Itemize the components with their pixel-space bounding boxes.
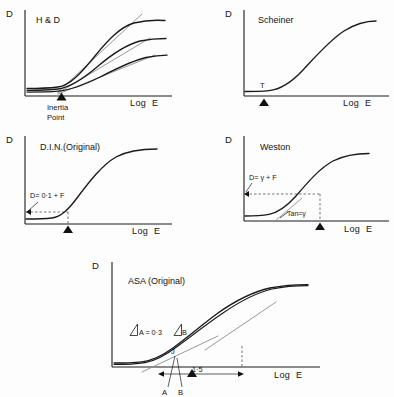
speed-point-marker-scheiner: [259, 99, 269, 107]
curve-characteristic-scheiner: [245, 21, 376, 92]
curve-a-asa: [114, 285, 308, 363]
panel-title-hd: H & D: [36, 15, 61, 25]
panel-title-din: D.I.N.(Original): [40, 142, 100, 152]
tangent-line-high-asa: [205, 302, 276, 350]
criterion-arrowhead-din: [26, 209, 31, 215]
curve-b-label: B: [178, 388, 183, 397]
tangent-line-1-hd: [58, 14, 142, 92]
interval-arrowhead-left-asa: [158, 371, 164, 377]
x-axis-title-hd: Log E: [130, 98, 158, 108]
panel-din: D D.I.N.(Original) D= 0·1 + F Log E: [0, 128, 196, 250]
panel-hd: D H & D Inertia Point Log E: [0, 0, 196, 128]
curve-b-asa: [114, 286, 308, 365]
figure-root: D H & D Inertia Point Log E D Scheiner: [0, 0, 394, 397]
delta-triangle-b-icon: [174, 324, 182, 336]
inertia-point-label-2: Point: [47, 113, 65, 122]
speed-point-marker-din: [63, 226, 73, 234]
panel-title-scheiner: Scheiner: [258, 15, 294, 25]
criterion-arrowhead-weston: [244, 191, 249, 197]
gamma-tangent-label: Tan=γ: [287, 210, 306, 218]
x-axis-title-scheiner: Log E: [343, 98, 371, 108]
panel-scheiner: D Scheiner T Log E: [196, 0, 394, 128]
delta-triangle-a-icon: [130, 324, 138, 336]
curve-low-contrast-hd: [27, 55, 167, 92]
curve-medium-contrast-hd: [27, 39, 166, 91]
panel-asa: D ASA (Original) 1·5 A = 0·3 B: [70, 250, 394, 397]
threshold-label: T: [260, 81, 265, 90]
x-axis-title-din: Log E: [132, 226, 160, 236]
x-axis-title-asa: Log E: [274, 370, 302, 380]
y-axis-title-scheiner: D: [225, 8, 232, 19]
criterion-leader-weston: [246, 183, 252, 192]
density-criterion-label-din: D= 0·1 + F: [30, 191, 65, 200]
density-criterion-label-weston: D= γ + F: [249, 173, 277, 182]
curve-characteristic-weston: [245, 154, 369, 217]
panel-title-asa: ASA (Original): [128, 276, 185, 286]
inertia-point-label: Inertia: [47, 103, 69, 112]
panel-weston: D Weston D= γ + F Tan=γ Log E: [196, 128, 394, 250]
curve-characteristic-din: [26, 149, 157, 219]
panel-title-weston: Weston: [260, 142, 290, 152]
y-axis-title-weston: D: [225, 134, 232, 145]
junction-point-label: J: [171, 347, 175, 356]
delta-criterion-label: A = 0·3: [139, 328, 162, 337]
leader-a-asa: [168, 356, 175, 387]
speed-point-marker-weston: [315, 223, 325, 231]
x-axis-title-weston: Log E: [344, 224, 372, 234]
delta-criterion-label-b: B: [182, 328, 187, 337]
y-axis-title-hd: D: [6, 8, 13, 19]
interval-arrowhead-right-asa: [238, 371, 244, 377]
y-axis-title-asa: D: [92, 260, 99, 271]
curve-a-label: A: [162, 388, 168, 397]
y-axis-title-din: D: [6, 134, 13, 145]
leader-b-asa: [177, 358, 182, 387]
